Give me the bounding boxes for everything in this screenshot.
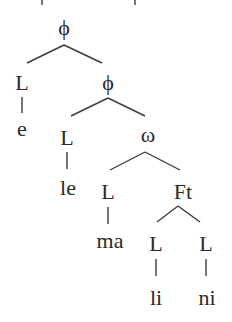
- edge-omega-Ft: [145, 152, 180, 170]
- edge-phiroot-phi2: [64, 45, 102, 63]
- leaf-ma: ma: [97, 228, 124, 253]
- leaf-le: le: [60, 175, 76, 200]
- prosodic-tree-diagram: ϕ L ϕ e L ω le L Ft ma L L li ni: [0, 0, 232, 322]
- node-L3: L: [101, 179, 114, 204]
- node-L2: L: [60, 125, 73, 150]
- node-L5: L: [199, 231, 212, 256]
- node-L4: L: [149, 231, 162, 256]
- edge-phi2-omega: [108, 98, 145, 116]
- node-phi-root: ϕ: [58, 15, 70, 40]
- node-phi-2: ϕ: [102, 70, 114, 95]
- leaf-e: e: [17, 116, 27, 141]
- node-omega: ω: [141, 122, 155, 147]
- edge-phi2-L2: [71, 98, 108, 116]
- edge-Ft-L5: [178, 206, 200, 222]
- leaf-li: li: [150, 285, 162, 310]
- edge-phiroot-L1: [27, 45, 64, 63]
- edge-omega-L3: [110, 152, 145, 170]
- node-Ft: Ft: [174, 179, 192, 204]
- leaf-ni: ni: [198, 285, 215, 310]
- node-L1: L: [15, 70, 28, 95]
- edge-Ft-L4: [157, 206, 178, 222]
